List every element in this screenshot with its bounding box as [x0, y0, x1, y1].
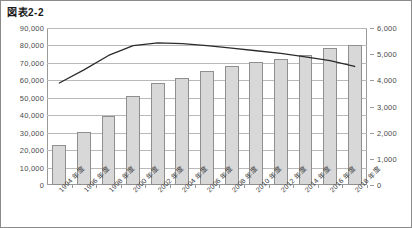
y-axis-left-tick: 60,000 — [20, 76, 44, 85]
y-axis-right-tick: 3,000 — [370, 102, 397, 111]
y-axis-right-tickmark — [370, 133, 374, 134]
plot-area — [47, 28, 367, 185]
y-axis-right-tickmark — [370, 80, 374, 81]
x-axis-labels: 1994 年度1996 年度1998 年度2000 年度2002 年度2004 … — [47, 187, 367, 227]
y-axis-right-tick: 4,000 — [370, 76, 397, 85]
line-series — [47, 28, 367, 185]
y-axis-left-tick: 0 — [40, 181, 44, 190]
y-axis-right-tick: 6,000 — [370, 24, 397, 33]
y-axis-right-tickmark — [370, 107, 374, 108]
y-axis-right: 01,0002,0003,0004,0005,0006,000 — [370, 28, 412, 185]
chart-frame: 図表2-2 010,00020,00030,00040,00050,00060,… — [0, 0, 412, 228]
y-axis-left-tick: 70,000 — [20, 58, 44, 67]
y-axis-left-tick: 40,000 — [20, 111, 44, 120]
y-axis-right-tick: 1,000 — [370, 154, 397, 163]
y-axis-right-tickmark — [370, 185, 374, 186]
y-axis-left-tick: 80,000 — [20, 41, 44, 50]
line-path — [59, 43, 354, 83]
y-axis-left: 010,00020,00030,00040,00050,00060,00070,… — [1, 28, 44, 185]
y-axis-left-tick: 20,000 — [20, 146, 44, 155]
y-axis-left-tick: 10,000 — [20, 163, 44, 172]
y-axis-right-tick: 5,000 — [370, 50, 397, 59]
y-axis-left-tick: 90,000 — [20, 24, 44, 33]
y-axis-right-tickmark — [370, 159, 374, 160]
y-axis-right-tickmark — [370, 28, 374, 29]
chart-title: 図表2-2 — [7, 4, 44, 19]
y-axis-left-tick: 50,000 — [20, 93, 44, 102]
y-axis-left-tick: 30,000 — [20, 128, 44, 137]
y-axis-right-tick: 2,000 — [370, 128, 397, 137]
y-axis-right-tickmark — [370, 54, 374, 55]
